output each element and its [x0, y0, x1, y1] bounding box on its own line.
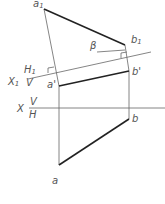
- label-b1: b1: [131, 34, 142, 46]
- label-h1: H1: [24, 64, 36, 76]
- label-v: V: [30, 96, 38, 107]
- diagram-canvas: a1 b1 β H1 X1 V a' b' X V H a b: [0, 0, 165, 204]
- label-x1: X1: [7, 76, 19, 88]
- label-a1: a1: [33, 0, 44, 10]
- label-a: a: [52, 175, 58, 186]
- true-length-line-a1b1: [44, 9, 125, 45]
- projector-a1-a-prime: [44, 9, 59, 86]
- projector-b1-b-prime: [125, 45, 129, 71]
- beta-reference-line: [97, 50, 125, 52]
- label-a-prime: a': [47, 79, 56, 90]
- right-angle-mark-a: [48, 67, 54, 73]
- label-h: H: [29, 109, 37, 120]
- line-a-prime-b-prime: [59, 71, 129, 86]
- label-b: b: [132, 113, 138, 124]
- label-v1: V: [26, 77, 34, 88]
- line-ab: [59, 119, 129, 165]
- label-beta: β: [89, 40, 97, 51]
- label-x: X: [16, 103, 25, 114]
- label-b-prime: b': [132, 66, 141, 77]
